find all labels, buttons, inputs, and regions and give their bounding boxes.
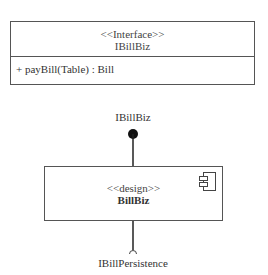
component-icon xyxy=(199,172,217,191)
required-interface-label: IBillPersistence xyxy=(78,257,188,269)
component-name: BillBiz xyxy=(45,194,222,207)
component-box: <<design>> BillBiz xyxy=(44,166,223,221)
connectors xyxy=(0,0,268,275)
required-interface-socket-icon xyxy=(130,251,137,254)
component-stereotype: <<design>> xyxy=(45,182,222,194)
